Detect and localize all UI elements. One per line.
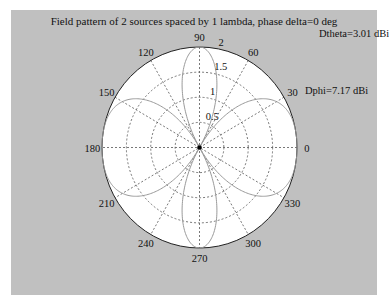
figure-window: 03060901201501802102402703003300.511.52 … [11,10,377,295]
angle-tick-label: 30 [287,87,298,98]
angle-tick-label: 240 [138,238,154,249]
radial-tick-label: 1 [210,86,215,97]
angle-tick-label: 60 [248,47,259,58]
angle-tick-label: 150 [99,87,115,98]
radial-tick-label: 0.5 [206,111,219,122]
dtheta-annotation: Dtheta=3.01 dBi [319,28,389,39]
angle-tick-label: 330 [285,198,301,209]
radial-tick-label: 2 [218,37,223,48]
angle-tick-label: 90 [194,32,205,43]
angle-tick-label: 210 [99,198,115,209]
dphi-annotation: Dphi=7.17 dBi [305,85,368,96]
angle-tick-label: 120 [138,47,154,58]
angle-tick-label: 0 [304,143,309,154]
polar-plot: 03060901201501802102402703003300.511.52 [11,10,377,295]
origin-marker [197,145,201,149]
angle-tick-label: 270 [192,253,208,264]
radial-tick-label: 1.5 [214,61,227,72]
angle-tick-label: 180 [84,143,100,154]
chart-title: Field pattern of 2 sources spaced by 1 l… [11,15,377,27]
angle-tick-label: 300 [245,238,261,249]
